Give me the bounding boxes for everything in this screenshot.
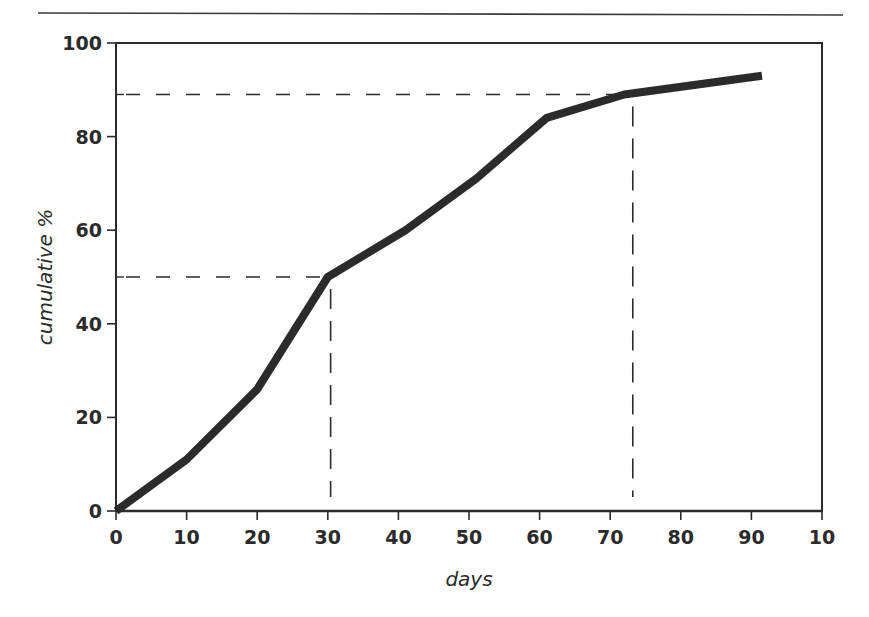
dashed-guides: [126, 94, 633, 497]
x-tick-label: 70: [597, 526, 623, 548]
x-tick-label: 90: [738, 526, 764, 548]
x-tick-label: 20: [244, 526, 270, 548]
x-tick-label: 0: [109, 526, 122, 548]
cumulative-line-chart: 010203040506070809010 020406080100 days …: [0, 0, 869, 617]
y-axis: 020406080100: [62, 32, 124, 522]
y-tick-label: 20: [76, 406, 102, 428]
x-tick-label: 80: [668, 526, 694, 548]
x-tick-label: 40: [385, 526, 411, 548]
x-tick-label: 50: [456, 526, 482, 548]
x-tick-label: 10: [809, 526, 835, 548]
x-tick-label: 60: [526, 526, 552, 548]
x-tick-label: 30: [315, 526, 341, 548]
y-axis-title: cumulative %: [33, 209, 57, 346]
y-tick-label: 100: [62, 32, 102, 54]
cumulative-line: [116, 76, 762, 511]
top-rule: [38, 13, 843, 15]
y-tick-label: 80: [76, 126, 102, 148]
x-tick-label: 10: [173, 526, 199, 548]
y-tick-label: 0: [89, 500, 102, 522]
y-tick-label: 40: [76, 313, 102, 335]
data-series: [116, 76, 762, 511]
y-tick-label: 60: [76, 219, 102, 241]
x-axis: 010203040506070809010: [109, 511, 835, 548]
x-axis-title: days: [445, 567, 492, 591]
